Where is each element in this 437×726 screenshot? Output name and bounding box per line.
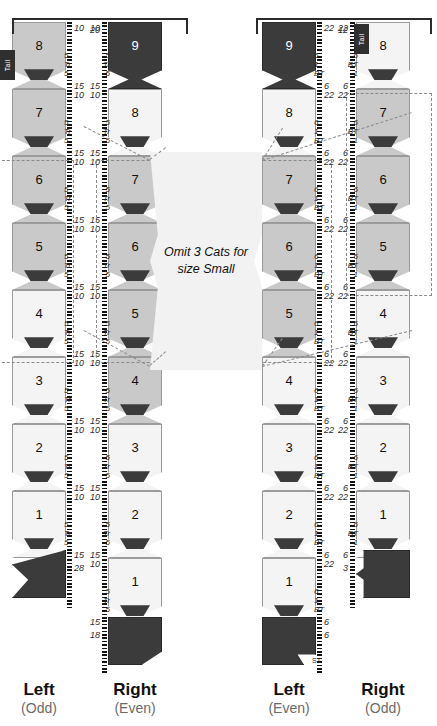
tick-label: 1 — [314, 463, 318, 471]
tick-label: 5 — [106, 387, 110, 395]
tick-label: Tr — [103, 128, 110, 136]
tick-label: 6 — [354, 387, 358, 395]
omit-callout-line2: size Small — [160, 261, 252, 278]
tick-label: 6 — [324, 618, 329, 627]
cat-number: 2 — [352, 441, 414, 454]
cat-cell: 3 — [8, 357, 70, 424]
tail-label: Tail — [4, 59, 11, 71]
tick-label: Tr — [64, 463, 71, 471]
tick-label: 10 — [90, 91, 100, 100]
cat-ears-icon — [120, 471, 150, 482]
cat-ears-icon — [24, 538, 54, 549]
cat-number: 3 — [258, 441, 320, 454]
tick-label: 6 — [354, 320, 358, 328]
tick-label: 5 — [106, 70, 110, 78]
tick-label: 6 — [354, 521, 358, 529]
tail-label: Tail — [358, 33, 365, 45]
tick-label: BT — [348, 530, 358, 538]
end-count-label: 18 — [90, 631, 100, 640]
cat-ears-icon — [120, 136, 150, 147]
cat-number: 3 — [104, 441, 166, 454]
cat-ears-icon — [24, 404, 54, 415]
tick-label: 5 — [106, 454, 110, 462]
cat-cell: 2 — [104, 491, 166, 558]
cat-number: 1 — [352, 508, 414, 521]
end-count-label: 3 — [343, 564, 348, 573]
tick-label: Tr — [64, 128, 71, 136]
tick-label: 1 — [354, 70, 358, 78]
omit-callout-line1: Omit 3 Cats for — [160, 244, 252, 261]
tick-label: 5 — [64, 70, 68, 78]
tick-label: 10 — [90, 560, 100, 569]
tick-label: 10 — [74, 225, 84, 234]
tick-label: Tr — [64, 61, 71, 69]
tick-label: 10 — [90, 493, 100, 502]
tick-label: 10 — [74, 292, 84, 301]
end-block — [108, 617, 162, 665]
tick-label: 10 — [74, 359, 84, 368]
tick-label: 5 — [64, 539, 68, 547]
tick-label: BT — [348, 61, 358, 69]
tick-label: BT — [348, 463, 358, 471]
tick-label: 10 — [74, 91, 84, 100]
pattern-diagram: 8105Tr5157105Tr5156105Tr5155105Tr5154105… — [0, 0, 437, 726]
tick-label: 6 — [314, 454, 318, 462]
cat-cell: 1 — [258, 558, 320, 625]
tick-label: Tr — [103, 597, 110, 605]
tick-label: 5 — [106, 588, 110, 596]
tick-label: 1 — [354, 405, 358, 413]
tick-label: 6 — [354, 454, 358, 462]
tick-label: 5 — [64, 387, 68, 395]
cat-number: 7 — [8, 106, 70, 119]
cat-number: 2 — [258, 508, 320, 521]
cat-ears-icon — [24, 136, 54, 147]
omit-highlight-box — [346, 93, 432, 296]
cat-ears-icon — [24, 471, 54, 482]
cat-ears-icon — [24, 69, 54, 80]
cat-cell: 2 — [352, 424, 414, 491]
cat-ears-icon — [274, 605, 304, 616]
tick-label: 5 — [64, 119, 68, 127]
cat-ears-icon — [274, 136, 304, 147]
cat-cell: 2 — [258, 491, 320, 558]
tick-label: 5 — [64, 405, 68, 413]
tick-label: BT — [314, 70, 324, 78]
tick-label: 1 — [354, 539, 358, 547]
tick-label: 1 — [314, 61, 318, 69]
cat-cell: 7 — [8, 89, 70, 156]
omit-callout: Omit 3 Cats forsize Small — [150, 152, 262, 370]
tick-label: Tr — [103, 530, 110, 538]
cat-ears-icon — [368, 538, 398, 549]
tick-label: BT — [314, 405, 324, 413]
cat-cell: 1 — [8, 491, 70, 558]
cat-cell: 8 — [258, 89, 320, 156]
tick-label: 22 — [338, 359, 348, 368]
tick-label: 10 — [74, 426, 84, 435]
footer-main-label: Right — [323, 680, 437, 700]
end-count-label: 6 — [324, 631, 329, 640]
cat-number: 3 — [352, 374, 414, 387]
cat-cell: 1 — [352, 491, 414, 558]
tick-label: 5 — [106, 539, 110, 547]
tick-label: 1 — [354, 472, 358, 480]
cat-ears-icon — [368, 471, 398, 482]
footer-sub-label: (Even) — [75, 700, 195, 717]
tick-label: Tr — [64, 530, 71, 538]
tick-label: 22 — [324, 493, 334, 502]
cat-number: 4 — [104, 374, 166, 387]
tick-label: 6 — [343, 551, 348, 560]
cat-ears-icon — [120, 404, 150, 415]
top-bracket-1 — [12, 18, 188, 34]
tick-label: 5 — [106, 119, 110, 127]
cat-cell: 3 — [258, 424, 320, 491]
end-block — [262, 617, 316, 665]
cat-number: 4 — [258, 374, 320, 387]
tick-label: 1 — [314, 597, 318, 605]
tick-label: 6 — [314, 521, 318, 529]
cat-number: 4 — [352, 307, 414, 320]
tick-label: 5 — [64, 472, 68, 480]
end-marker-label: ST — [312, 657, 321, 664]
cat-number: 3 — [8, 374, 70, 387]
tick-label: 5 — [106, 606, 110, 614]
cat-number: 8 — [104, 106, 166, 119]
